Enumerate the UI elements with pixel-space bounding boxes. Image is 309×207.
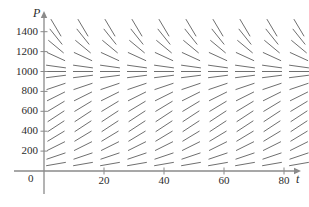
slope-segment xyxy=(100,162,120,165)
slope-segment xyxy=(210,111,227,122)
slope-segment xyxy=(154,162,174,165)
slope-segment xyxy=(48,40,63,53)
slope-segment xyxy=(289,75,309,78)
slope-segment xyxy=(47,92,65,101)
slope-segment xyxy=(154,65,174,68)
slope-segment xyxy=(262,162,282,165)
slope-segment xyxy=(75,111,92,122)
slope-segment xyxy=(128,92,146,101)
slope-segment xyxy=(127,162,147,165)
slope-segment xyxy=(209,101,226,111)
slope-segment xyxy=(128,52,146,60)
slope-segment xyxy=(263,83,282,89)
slope-segment xyxy=(290,131,307,141)
x-axis-name-label: t xyxy=(296,172,299,187)
slope-segment xyxy=(183,111,200,122)
y-axis-tick-label: 600 xyxy=(4,104,38,116)
slope-segment xyxy=(74,83,93,89)
slope-segment xyxy=(182,101,199,111)
slope-segment xyxy=(75,121,92,132)
slope-segment xyxy=(74,153,93,159)
slope-segment xyxy=(74,92,92,101)
slope-segment xyxy=(154,75,174,78)
slope-segment xyxy=(181,75,201,78)
slope-segment xyxy=(183,121,200,132)
y-axis-tick-label: 400 xyxy=(4,124,38,136)
slope-segment xyxy=(73,75,93,78)
slope-segment xyxy=(155,153,174,159)
slope-segment xyxy=(186,19,196,36)
slope-segment xyxy=(127,75,147,78)
slope-segment xyxy=(263,131,280,141)
y-axis-tick-label: 800 xyxy=(4,84,38,96)
slope-segment xyxy=(236,83,255,89)
slope-segment xyxy=(132,19,142,36)
y-axis-tick-label: 1400 xyxy=(4,25,38,37)
x-axis-tick-label: 80 xyxy=(271,174,297,186)
slope-segment xyxy=(264,111,281,122)
x-axis-tick-label: 20 xyxy=(91,174,117,186)
slope-segment xyxy=(105,19,115,36)
slope-segment xyxy=(240,19,250,36)
slope-segment xyxy=(101,131,118,141)
slope-segment xyxy=(159,19,169,36)
slope-segment xyxy=(128,83,147,89)
slope-segment xyxy=(208,65,228,68)
slope-segment xyxy=(264,121,281,132)
slope-segment xyxy=(46,65,66,68)
slope-segment xyxy=(290,83,309,89)
slope-segment xyxy=(131,29,143,45)
y-axis-tick-label: 200 xyxy=(4,144,38,156)
slope-segment xyxy=(158,29,170,45)
slope-segment xyxy=(104,29,116,45)
slope-segment xyxy=(100,75,120,78)
slope-segment xyxy=(209,131,226,141)
slope-segment xyxy=(155,52,173,60)
slope-segment xyxy=(155,131,172,141)
slope-segment xyxy=(46,75,66,78)
slope-segment xyxy=(239,29,251,45)
slope-segment xyxy=(236,153,255,159)
origin-label: 0 xyxy=(28,172,34,184)
y-axis-tick-label: 1000 xyxy=(4,65,38,77)
slope-segment xyxy=(209,52,227,60)
slope-segment xyxy=(181,65,201,68)
slope-segment xyxy=(290,153,309,159)
slope-segment xyxy=(47,101,64,111)
slope-segment xyxy=(263,153,282,159)
slope-segment xyxy=(182,153,201,159)
slope-segment xyxy=(236,131,253,141)
slope-segment xyxy=(263,142,281,151)
slope-segment xyxy=(182,83,201,89)
slope-segment xyxy=(101,92,119,101)
slope-segment xyxy=(73,65,93,68)
x-axis-tick-label: 60 xyxy=(211,174,237,186)
slope-segment xyxy=(100,65,120,68)
slope-segment xyxy=(101,153,120,159)
slope-segment xyxy=(209,92,227,101)
slope-segment xyxy=(102,40,117,53)
slope-segment xyxy=(75,40,90,53)
slope-segment xyxy=(50,29,62,45)
slope-field-figure: 200400600800100012001400 20406080 0 P t xyxy=(0,0,309,207)
slope-segment xyxy=(182,131,199,141)
slope-segment xyxy=(291,40,306,53)
slope-segment xyxy=(235,65,255,68)
slope-segment xyxy=(209,83,228,89)
slope-segment xyxy=(290,52,308,60)
slope-segment xyxy=(208,162,228,165)
slope-segment xyxy=(73,162,93,165)
slope-segment xyxy=(209,153,228,159)
slope-segment xyxy=(213,19,223,36)
slope-segment xyxy=(47,131,64,141)
slope-segment xyxy=(48,111,65,122)
slope-segment xyxy=(129,121,146,132)
slope-segment xyxy=(127,65,147,68)
slope-segment xyxy=(47,142,65,151)
slope-segment xyxy=(74,131,91,141)
slope-segment xyxy=(47,83,66,89)
slope-segment xyxy=(74,101,91,111)
slope-segment xyxy=(128,131,145,141)
slope-segment xyxy=(208,75,228,78)
slope-segment xyxy=(293,29,305,45)
